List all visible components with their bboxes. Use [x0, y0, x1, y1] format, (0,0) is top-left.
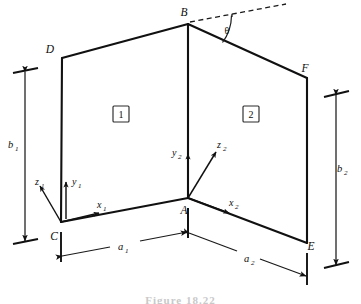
dim-label-b1: b 1: [8, 139, 19, 153]
axis-z1-arrow: [40, 186, 61, 222]
panel-2-label: 2: [249, 109, 254, 120]
axis-label-y2: y 2: [171, 147, 182, 161]
vertex-label-C: C: [50, 230, 58, 242]
plate-assembly-diagram: 1 2 B D F C A E θ x 1 y 1 z 1 x 2: [0, 0, 361, 304]
dim-a2-line-right: [260, 259, 306, 276]
vertex-label-B: B: [180, 6, 187, 18]
axis-label-z2-sub: 2: [223, 145, 227, 153]
panel-1-outline: [61, 24, 188, 222]
dim-label-b1-base: b: [8, 139, 13, 150]
figure-caption: Figure 18.22: [0, 294, 361, 304]
dim-label-a2-sub: 2: [251, 259, 255, 267]
axis-label-x2-sub: 2: [235, 203, 239, 211]
dim-label-b2-sub: 2: [344, 169, 348, 177]
axis-label-x2-base: x: [228, 197, 234, 208]
vertex-label-D: D: [45, 43, 55, 55]
axis-label-y2-sub: 2: [178, 153, 182, 161]
axis-label-z1: z 1: [34, 176, 45, 190]
axis-label-x1: x 1: [96, 199, 107, 213]
dim-a2-line-left: [189, 233, 237, 251]
axis-label-x1-base: x: [96, 199, 102, 210]
coordinate-system-2: [188, 152, 229, 213]
panel-1-label: 1: [119, 109, 124, 120]
vertex-label-E: E: [306, 240, 314, 252]
dim-label-a2: a 2: [244, 253, 255, 267]
figure-container: 1 2 B D F C A E θ x 1 y 1 z 1 x 2: [0, 0, 361, 304]
edge-DB: [62, 24, 188, 58]
edge-CD: [61, 58, 62, 222]
angle-theta-group: [190, 4, 286, 43]
dimension-b1: [13, 68, 38, 244]
axis-label-x1-sub: 1: [103, 205, 107, 213]
dim-label-b2-base: b: [337, 163, 342, 174]
angle-label-theta: θ: [225, 25, 230, 36]
axis-label-y1-sub: 1: [78, 182, 82, 190]
axis-label-x2: x 2: [228, 197, 239, 211]
panel-2-badge: 2: [243, 106, 259, 122]
axis-label-y1: y 1: [71, 176, 82, 190]
axis-z2-arrow: [188, 152, 216, 198]
panel-1-badge: 1: [113, 106, 129, 122]
axis-label-y1-base: y: [71, 176, 77, 187]
dimension-b2: [324, 91, 349, 268]
dim-label-a1: a 1: [118, 241, 129, 255]
dim-label-b1-sub: 1: [15, 145, 19, 153]
axis-label-y2-base: y: [171, 147, 177, 158]
axis-label-z1-base: z: [34, 176, 39, 187]
axis-label-z2: z 2: [216, 139, 227, 153]
vertex-label-F: F: [300, 62, 309, 74]
axis-x2-arrow: [188, 198, 229, 213]
edge-BF: [188, 24, 307, 78]
axis-label-z2-base: z: [216, 139, 221, 150]
dim-label-b2: b 2: [337, 163, 348, 177]
vertex-label-A: A: [179, 204, 188, 216]
dim-a1-line-right: [140, 232, 187, 241]
panel-2-outline: [188, 24, 307, 243]
dim-label-a2-base: a: [244, 253, 249, 264]
dim-label-a1-sub: 1: [125, 247, 129, 255]
dashed-reference-line: [190, 4, 286, 22]
axis-label-z1-sub: 1: [41, 182, 45, 190]
edge-AC: [61, 198, 188, 222]
dim-a1-line-left: [62, 247, 110, 256]
dim-label-a1-base: a: [118, 241, 123, 252]
